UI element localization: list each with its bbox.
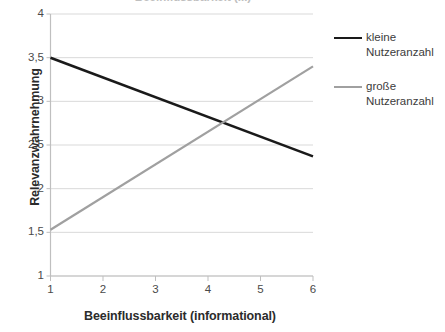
x-axis-tick-label: 5 (248, 284, 274, 296)
series-line-kleine-nutzeranzahl (51, 58, 314, 157)
legend-line-swatch-icon (334, 37, 362, 39)
chart-figure: Beeinflussbarkeit (...) 43,532,521,51 12… (0, 0, 445, 332)
x-axis-tick-label: 6 (300, 284, 326, 296)
x-axis-tick-label: 1 (38, 284, 64, 296)
legend-item[interactable]: große Nutzeranzahl (334, 79, 444, 109)
chart-legend: kleine Nutzeranzahlgroße Nutzeranzahl (334, 30, 444, 128)
y-axis-title: Relevanzwahrnehmung (28, 22, 42, 252)
x-axis-title: Beeinflussbarkeit (informational) (45, 309, 315, 323)
y-axis-tick-label: 4 (10, 8, 44, 20)
legend-line-swatch-icon (334, 86, 362, 88)
legend-item-label: kleine Nutzeranzahl (366, 30, 444, 60)
x-axis-tick-labels: 123456 (0, 284, 445, 300)
y-axis-tick-label: 1 (10, 270, 44, 282)
x-axis-tick-label: 2 (90, 284, 116, 296)
series-line-grosse-nutzeranzahl (51, 66, 314, 229)
x-axis-tick-label: 4 (195, 284, 221, 296)
legend-item-label: große Nutzeranzahl (366, 79, 444, 109)
x-axis-tick-label: 3 (143, 284, 169, 296)
legend-item[interactable]: kleine Nutzeranzahl (334, 30, 444, 60)
